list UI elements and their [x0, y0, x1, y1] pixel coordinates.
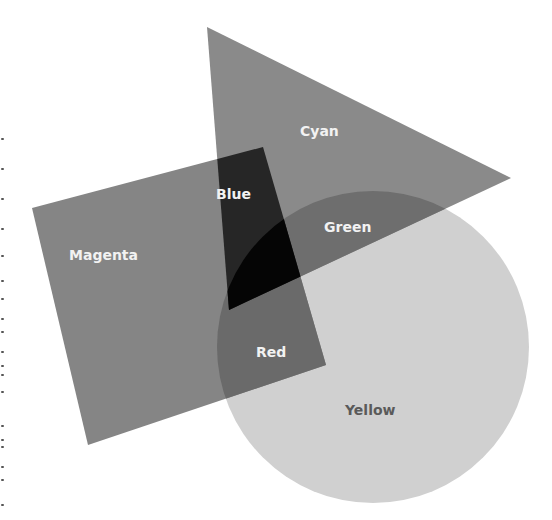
color-mixing-diagram: Cyan Blue Green Magenta Red Yellow: [0, 0, 552, 520]
page-edge-text-fragments: [0, 0, 8, 520]
diagram-canvas: Cyan Blue Green Magenta Red Yellow: [0, 0, 552, 520]
label-magenta: Magenta: [69, 247, 138, 263]
label-yellow: Yellow: [344, 402, 396, 418]
label-red: Red: [256, 344, 286, 360]
label-blue: Blue: [216, 186, 251, 202]
label-cyan: Cyan: [300, 123, 339, 139]
label-green: Green: [324, 219, 371, 235]
